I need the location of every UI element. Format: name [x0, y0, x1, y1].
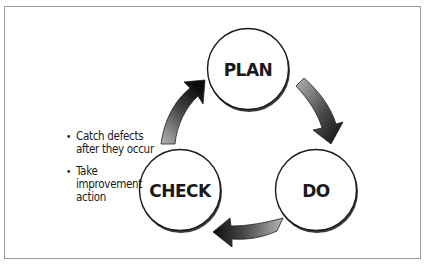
note-item: Catch defects after they occur	[66, 130, 156, 156]
arrow-check-to-plan	[161, 80, 205, 144]
pdca-diagram: PLAN DO CHECK	[0, 0, 428, 270]
notes-list: Catch defects after they occur Take impr…	[66, 130, 156, 213]
note-item: Take improvement action	[66, 165, 156, 204]
node-plan-label: PLAN	[224, 60, 273, 80]
arrow-plan-to-do	[296, 78, 343, 144]
node-do: DO	[276, 150, 359, 234]
node-check-label: CHECK	[149, 181, 212, 201]
arrow-do-to-check	[213, 218, 283, 247]
node-plan: PLAN	[208, 29, 291, 113]
node-do-label: DO	[302, 181, 330, 201]
